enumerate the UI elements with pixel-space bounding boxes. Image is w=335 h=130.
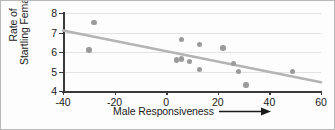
y-axis-tick-label: 4 — [51, 86, 57, 97]
scatter-plot-figure: Rate of Startling Females 45678 -40-2002… — [0, 0, 335, 130]
data-point — [179, 56, 184, 61]
right-arrow-icon — [219, 107, 271, 116]
y-axis-tick-label: 7 — [51, 27, 57, 38]
data-point — [220, 45, 225, 50]
x-axis-tick — [115, 91, 116, 95]
x-axis-title: Male Responsiveness — [113, 105, 214, 117]
x-axis-title-group: Male Responsiveness — [63, 105, 321, 117]
plot-area: 45678 -40-200204060 — [63, 13, 321, 91]
x-axis-line — [62, 91, 322, 93]
y-axis-title-line-2: Startling Females — [19, 0, 30, 65]
y-axis-title: Rate of Startling Females — [3, 0, 35, 71]
x-axis-tick — [269, 91, 270, 95]
x-axis-tick — [218, 91, 219, 95]
data-point — [86, 47, 91, 52]
y-axis-tick-label: 8 — [51, 8, 57, 19]
y-axis-title-line-1: Rate of — [8, 8, 19, 41]
y-axis-tick-label: 5 — [51, 66, 57, 77]
trendline — [63, 13, 321, 91]
x-axis-tick — [321, 91, 322, 95]
x-axis-tick — [166, 91, 167, 95]
x-axis-tick — [63, 91, 64, 95]
data-point — [243, 82, 248, 87]
y-axis-tick-label: 6 — [51, 47, 57, 58]
